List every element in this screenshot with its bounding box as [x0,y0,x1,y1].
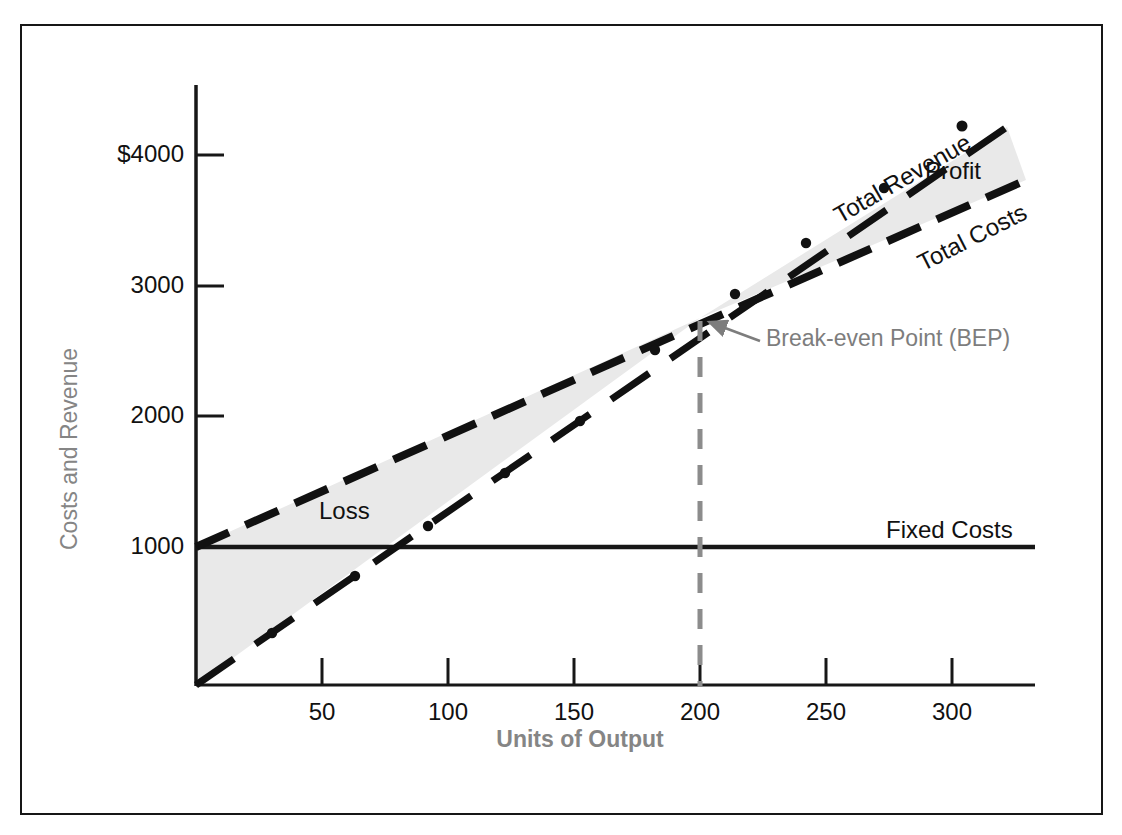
y-tick-label-4000: $4000 [74,140,184,168]
x-tick-label-200: 200 [660,698,740,726]
x-axis-title: Units of Output [450,726,710,753]
data-point-marker [267,628,277,638]
series-label-fixed-costs: Fixed Costs [886,516,1013,544]
x-tick-label-150: 150 [534,698,614,726]
y-tick-label-1000: 1000 [74,532,184,560]
y-tick-label-3000: 3000 [74,271,184,299]
series-label-loss: Loss [319,497,370,525]
x-tick-label-300: 300 [912,698,992,726]
data-point-marker [500,468,510,478]
data-point-marker [423,521,433,531]
x-tick-label-250: 250 [786,698,866,726]
data-point-marker [575,416,585,426]
data-point-marker [650,345,660,355]
x-tick-label-50: 50 [282,698,362,726]
x-tick-label-100: 100 [408,698,488,726]
total-revenue-line [196,127,1007,685]
data-point-marker [730,289,740,299]
bep-annotation: Break-even Point (BEP) [766,325,1010,352]
breakeven-chart-figure: $4000 3000 2000 1000 50 100 150 200 250 … [0,0,1122,835]
data-point-marker [350,571,360,581]
series-label-profit: Profit [925,157,981,185]
bep-arrow [709,322,760,341]
y-tick-label-2000: 2000 [74,401,184,429]
y-axis-title: Costs and Revenue [56,348,83,550]
data-point-marker [801,238,811,248]
total-costs-line [196,180,1026,547]
